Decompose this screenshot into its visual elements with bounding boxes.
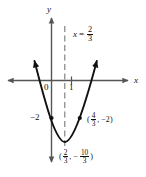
right-point-close-paren: ) bbox=[110, 116, 113, 124]
vertex-y-fraction: 10 3 bbox=[80, 149, 89, 165]
axis-of-symmetry-denominator: 3 bbox=[87, 35, 93, 43]
vertex-open-paren: ( bbox=[59, 153, 62, 161]
vertex-comma: , bbox=[69, 153, 71, 161]
right-point-open-paren: ( bbox=[87, 116, 90, 124]
vertex-close-paren: ) bbox=[90, 153, 93, 161]
parabola-curve bbox=[35, 61, 97, 142]
x-tick-label-1: 1 bbox=[69, 83, 74, 92]
right-point-x-denominator: 3 bbox=[91, 120, 97, 127]
graph-figure: y x 0 1 −2 x = 2 3 ( 4 3 , −2 ) ( 2 3 , … bbox=[0, 0, 146, 177]
x-axis-label: x bbox=[134, 76, 138, 85]
vertex-minus-sign: − bbox=[73, 153, 78, 161]
axis-of-symmetry-fraction: 2 3 bbox=[87, 26, 93, 44]
vertex-x-denominator: 3 bbox=[63, 157, 69, 164]
axis-of-symmetry-label: x = 2 3 bbox=[73, 26, 94, 44]
vertex-x-fraction: 2 3 bbox=[63, 149, 69, 165]
axis-of-symmetry-equals: = bbox=[79, 30, 84, 39]
origin-tick-label: 0 bbox=[44, 83, 49, 92]
right-point-label: ( 4 3 , −2 ) bbox=[87, 112, 113, 128]
right-point-x-fraction: 4 3 bbox=[91, 112, 97, 128]
point-marker-left bbox=[49, 116, 53, 120]
right-point-comma: , bbox=[97, 116, 99, 124]
point-marker-right bbox=[78, 116, 82, 120]
y-axis-label: y bbox=[47, 5, 51, 14]
vertex-point-label: ( 2 3 , − 10 3 ) bbox=[59, 149, 93, 165]
y-tick-label-minus2: −2 bbox=[30, 113, 40, 122]
vertex-y-denominator: 3 bbox=[82, 157, 88, 164]
axis-of-symmetry-variable: x bbox=[73, 30, 77, 39]
right-point-y-value: −2 bbox=[101, 116, 110, 124]
